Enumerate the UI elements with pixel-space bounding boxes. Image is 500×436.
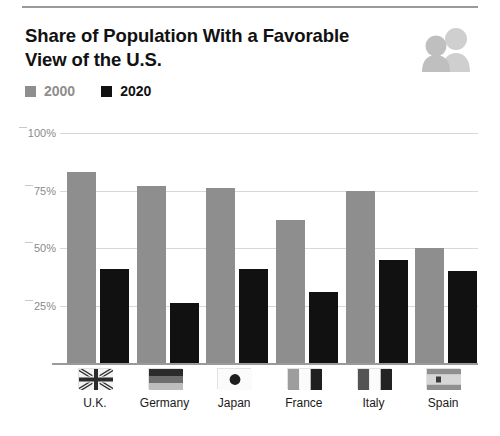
chart-card: Share of Population With a Favorable Vie… [0,0,500,436]
bar-group-germany [130,133,200,363]
x-axis-item-japan[interactable]: Japan [199,368,269,426]
uk-flag [78,368,112,389]
x-axis-item-uk[interactable]: U.K. [60,368,130,426]
x-axis-labels: U.K.GermanyJapanFranceItalySpain [60,368,478,426]
plot-area: 25%50%75%100% [60,133,478,363]
y-axis-tick-75: 75% [34,185,56,197]
germany-flag [148,368,182,389]
x-axis-label-france: France [285,396,322,410]
bar-japan-2020[interactable] [239,269,268,363]
y-axis-tick-100: 100% [28,127,56,139]
bar-uk-2000[interactable] [67,172,96,363]
japan-flag [217,368,251,389]
y-tick-dash [25,242,33,243]
bar-spain-2000[interactable] [415,248,444,363]
y-tick-dash [19,127,27,128]
x-axis-item-germany[interactable]: Germany [130,368,200,426]
spain-flag [426,368,460,389]
x-axis-label-uk: U.K. [83,396,106,410]
bar-group-uk [60,133,130,363]
chart-legend: 2000 2020 [25,84,151,98]
legend-item-2000[interactable]: 2000 [25,84,75,98]
y-tick-dash [25,185,33,186]
legend-item-2020[interactable]: 2020 [101,84,151,98]
two-people-icon [417,26,475,74]
italy-flag [357,368,391,389]
x-axis-line [52,363,478,365]
x-axis-label-germany: Germany [140,396,189,410]
x-axis-item-spain[interactable]: Spain [408,368,478,426]
top-divider [22,6,478,8]
bar-germany-2000[interactable] [137,186,166,363]
bar-spain-2020[interactable] [448,271,477,363]
bar-france-2020[interactable] [309,292,338,363]
page-title: Share of Population With a Favorable Vie… [25,24,385,72]
france-flag [287,368,321,389]
bar-france-2000[interactable] [276,220,305,363]
x-axis-item-italy[interactable]: Italy [339,368,409,426]
bar-group-italy [339,133,409,363]
x-axis-label-spain: Spain [428,396,459,410]
x-axis-label-japan: Japan [218,396,251,410]
bar-uk-2020[interactable] [100,269,129,363]
bar-group-spain [408,133,478,363]
legend-label-2000: 2000 [44,84,75,98]
x-axis-item-france[interactable]: France [269,368,339,426]
bar-japan-2000[interactable] [206,188,235,363]
bar-group-france [269,133,339,363]
x-axis-label-italy: Italy [363,396,385,410]
bar-group-japan [199,133,269,363]
bar-germany-2020[interactable] [170,303,199,363]
legend-label-2020: 2020 [120,84,151,98]
y-tick-dash [25,300,33,301]
bar-groups [60,133,478,363]
y-axis-tick-50: 50% [34,242,56,254]
y-axis-tick-25: 25% [34,300,56,312]
bar-italy-2020[interactable] [379,260,408,364]
legend-swatch-2020 [101,86,112,97]
legend-swatch-2000 [25,86,36,97]
chart-header: Share of Population With a Favorable Vie… [25,24,475,114]
bar-italy-2000[interactable] [346,191,375,364]
